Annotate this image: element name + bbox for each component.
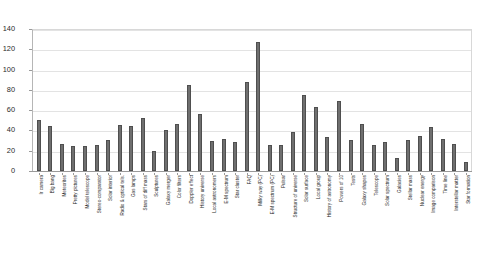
x-axis-tick-label: Big bang	[50, 175, 55, 193]
x-label-slot: FAQ	[241, 173, 253, 253]
bar-slot	[437, 29, 449, 171]
x-axis-tick-label: Pulsar	[281, 175, 286, 188]
bar	[302, 95, 306, 171]
bar-slot	[68, 29, 80, 171]
bar-slot	[56, 29, 68, 171]
x-axis-tick-label: Radio & optical tels.	[120, 175, 125, 216]
bar	[418, 136, 422, 172]
x-axis-tick-label: Powers of 10	[339, 175, 344, 202]
bar	[360, 124, 364, 171]
x-label-slot: Pulsar	[275, 173, 287, 253]
bar	[106, 140, 110, 171]
x-label-slot: Stereo-comparator	[91, 173, 103, 253]
x-axis-line	[32, 171, 472, 172]
x-label-slot: Image comparison	[426, 173, 438, 253]
bar-slot	[218, 29, 230, 171]
x-axis-tick-label: Time line	[443, 175, 448, 193]
y-axis-tick-label: 140	[0, 25, 15, 32]
x-label-slot: Milky way (PC)	[252, 173, 264, 253]
bar	[268, 145, 272, 171]
bar	[372, 145, 376, 171]
x-label-slot: Meteorites	[56, 173, 68, 253]
x-axis-tick-label: Tests	[351, 175, 356, 186]
x-label-slot: Gas lamps	[125, 173, 137, 253]
x-axis-tick-label: Gas lamps	[131, 175, 136, 197]
bar-slot	[172, 29, 184, 171]
bar	[95, 145, 99, 171]
bar-slot	[299, 29, 311, 171]
x-axis-tick-label: E-M spectrum	[224, 175, 229, 204]
x-axis-tick-label: Solar surface	[304, 175, 309, 202]
x-label-slot: Pretty pictures	[68, 173, 80, 253]
bar-slot	[195, 29, 207, 171]
bar	[337, 101, 341, 171]
x-axis-tick-label: Solar spectrum	[385, 175, 390, 206]
bar	[152, 151, 156, 171]
bar	[141, 118, 145, 171]
x-axis-tick-label: Stellar mass	[408, 175, 413, 200]
x-axis-tick-label: Structure of universe	[293, 175, 298, 217]
bar-slot	[310, 29, 322, 171]
x-label-slot: Model telescope	[79, 173, 91, 253]
bar-slot	[137, 29, 149, 171]
x-label-slot: Stars of diff mass	[137, 173, 149, 253]
bar	[464, 162, 468, 171]
bar-slot	[102, 29, 114, 171]
bar	[175, 124, 179, 171]
bar	[429, 127, 433, 171]
bar-series	[33, 29, 472, 171]
bar	[291, 132, 295, 171]
bar-slot	[79, 29, 91, 171]
chart-title	[0, 0, 489, 3]
bar-slot	[241, 29, 253, 171]
bar-slot	[322, 29, 334, 171]
bar-slot	[403, 29, 415, 171]
x-axis-tick-label: Doppler effect	[189, 175, 194, 204]
bar-slot	[125, 29, 137, 171]
x-axis-tick-label: Solar interior	[108, 175, 113, 201]
x-label-slot: Powers of 10	[333, 173, 345, 253]
bar	[233, 142, 237, 171]
bar	[441, 139, 445, 171]
bar	[222, 139, 226, 171]
bar-slot	[229, 29, 241, 171]
x-axis-tick-label: Star formation	[466, 175, 471, 204]
bar	[37, 120, 41, 171]
x-label-slot: Stellar mass	[403, 173, 415, 253]
x-axis-tick-label: Galaxy shapes	[362, 175, 367, 205]
bar-slot	[264, 29, 276, 171]
bar	[349, 140, 353, 171]
bar-slot	[114, 29, 126, 171]
x-axis-tick-label: History of astronomy	[327, 175, 332, 217]
bar	[60, 144, 64, 171]
bar-slot	[148, 29, 160, 171]
bar-slot	[356, 29, 368, 171]
bar	[256, 42, 260, 171]
x-label-slot: E-M spectrum	[218, 173, 230, 253]
x-label-slot: Color filters	[172, 173, 184, 253]
x-label-slot: Galaxy shapes	[356, 173, 368, 253]
bar	[395, 158, 399, 171]
y-axis-tick-label: 60	[0, 106, 15, 113]
x-label-slot: Time line	[437, 173, 449, 253]
y-axis-tick-mark	[29, 110, 32, 111]
bar	[118, 125, 122, 171]
x-axis-tick-label: Galaxies	[397, 175, 402, 193]
bar	[129, 126, 133, 171]
bar	[48, 126, 52, 171]
x-axis-tick-label: Galaxy merger	[166, 175, 171, 205]
bar	[187, 85, 191, 171]
bar-slot	[368, 29, 380, 171]
bar-slot	[287, 29, 299, 171]
y-axis-tick-mark	[29, 49, 32, 50]
y-axis-tick-mark	[29, 70, 32, 71]
y-axis-tick-mark	[29, 151, 32, 152]
x-label-slot: History of astronomy	[322, 173, 334, 253]
y-axis-tick-label: 100	[0, 66, 15, 73]
x-label-slot: Solar spectrum	[379, 173, 391, 253]
bar	[383, 142, 387, 171]
y-axis-tick-label: 120	[0, 45, 15, 52]
x-axis-tick-label: Model telescope	[85, 175, 90, 208]
x-label-slot: Doppler effect	[183, 173, 195, 253]
x-label-slot: Big bang	[45, 173, 57, 253]
